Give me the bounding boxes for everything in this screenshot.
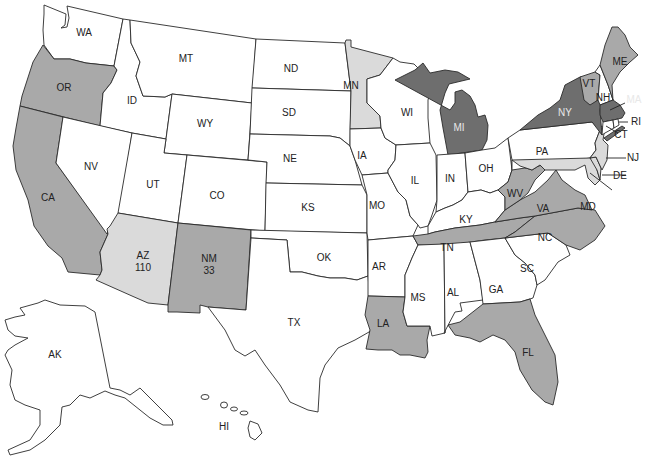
- label-KY: KY: [459, 214, 473, 225]
- label-NH: NH: [596, 92, 610, 103]
- label-DE: DE: [613, 170, 627, 181]
- state-MA[interactable]: [600, 100, 625, 122]
- state-ND[interactable]: [252, 39, 351, 91]
- state-HI[interactable]: [201, 395, 262, 441]
- label-CO: CO: [210, 190, 225, 201]
- label-MD: MD: [580, 201, 596, 212]
- label-NY: NY: [558, 107, 572, 118]
- label-NM: NM: [201, 253, 217, 264]
- label-AL: AL: [447, 287, 460, 298]
- label-MN: MN: [343, 80, 359, 91]
- label-WV: WV: [507, 188, 523, 199]
- label-CA: CA: [41, 192, 55, 203]
- label-GA: GA: [489, 284, 504, 295]
- label-OH: OH: [479, 163, 494, 174]
- state-RI[interactable]: [613, 119, 619, 128]
- label-NC: NC: [538, 232, 552, 243]
- label-IA: IA: [357, 150, 367, 161]
- label-IN: IN: [445, 173, 455, 184]
- label-OR: OR: [57, 82, 72, 93]
- label-FL: FL: [522, 347, 534, 358]
- label-CT: CT: [614, 129, 627, 140]
- label-TN: TN: [440, 242, 453, 253]
- label-ME: ME: [613, 56, 628, 67]
- label-NE: NE: [283, 153, 297, 164]
- label-LA: LA: [377, 318, 390, 329]
- label-WA: WA: [76, 27, 92, 38]
- label-MA: MA: [627, 94, 642, 105]
- label-ND: ND: [284, 63, 298, 74]
- label-MO: MO: [369, 200, 385, 211]
- label-TX: TX: [288, 317, 301, 328]
- value-NM: 33: [203, 265, 215, 276]
- label-VT: VT: [583, 78, 596, 89]
- label-HI: HI: [219, 421, 229, 432]
- label-OK: OK: [317, 252, 332, 263]
- state-AK[interactable]: [5, 300, 173, 455]
- label-SC: SC: [520, 263, 534, 274]
- value-AZ: 110: [135, 262, 151, 273]
- us-state-map: WA OR CA ID NV MT WY UT CO AZ 110 NM 33 …: [0, 0, 646, 457]
- label-WY: WY: [197, 118, 213, 129]
- label-NV: NV: [84, 161, 98, 172]
- label-RI: RI: [631, 116, 641, 127]
- label-UT: UT: [146, 179, 159, 190]
- state-KS[interactable]: [265, 183, 367, 233]
- label-IL: IL: [411, 175, 420, 186]
- label-WI: WI: [401, 107, 413, 118]
- label-MS: MS: [411, 292, 426, 303]
- label-KS: KS: [301, 202, 315, 213]
- label-MT: MT: [179, 53, 193, 64]
- label-PA: PA: [536, 146, 549, 157]
- state-FL[interactable]: [448, 299, 558, 405]
- label-VA: VA: [537, 203, 550, 214]
- label-NJ: NJ: [627, 152, 639, 163]
- label-AK: AK: [48, 349, 62, 360]
- label-AR: AR: [372, 261, 386, 272]
- label-AZ: AZ: [137, 250, 150, 261]
- label-ID: ID: [127, 95, 137, 106]
- label-MI: MI: [453, 122, 464, 133]
- label-SD: SD: [282, 107, 296, 118]
